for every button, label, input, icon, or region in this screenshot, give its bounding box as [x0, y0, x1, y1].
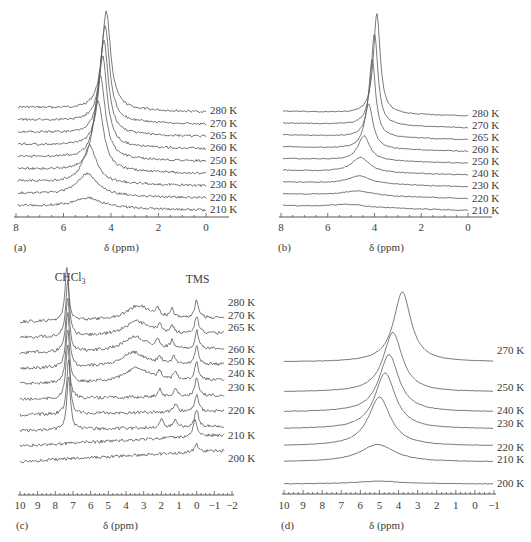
x-tick-label: 5: [377, 499, 383, 511]
temperature-label: 260 K: [210, 141, 237, 153]
temperature-label: 210 K: [210, 203, 237, 215]
temperature-label: 240 K: [210, 166, 237, 178]
spectrum-trace: [20, 360, 224, 417]
temperature-label: 220 K: [497, 441, 524, 453]
x-tick-label: 2: [434, 499, 440, 511]
x-tick-label: 7: [339, 499, 345, 511]
spectrum-trace: [18, 26, 206, 126]
x-tick-label: 2: [159, 499, 165, 511]
x-tick-label: 4: [396, 499, 402, 511]
temperature-label: 200 K: [497, 477, 524, 489]
spectrum-trace: [284, 292, 493, 362]
tms-annotation: TMS: [186, 273, 210, 285]
spectrum-trace: [20, 281, 224, 338]
x-tick-label: 5: [106, 499, 112, 511]
temperature-label: 240 K: [497, 404, 524, 416]
temperature-label: 200 K: [228, 452, 255, 464]
x-tick-label: 6: [358, 499, 364, 511]
x-tick-label: 4: [123, 499, 129, 511]
spectrum-trace: [284, 355, 493, 412]
x-axis-title: δ (ppm): [369, 241, 404, 254]
x-tick-label: 0: [465, 221, 471, 233]
x-tick-label: 6: [88, 499, 94, 511]
spectrum-trace: [18, 173, 206, 199]
spectrum-trace: [20, 313, 224, 370]
temperature-label: 230 K: [472, 179, 499, 191]
temperature-label: 250 K: [472, 155, 499, 167]
panel-d: 109876543210−1(d)δ (ppm)270 K250 K240 K2…: [279, 292, 525, 532]
temperature-label: 260 K: [228, 343, 255, 355]
spectrum-trace: [284, 481, 493, 484]
temperature-label: 265 K: [210, 129, 237, 141]
spectrum-trace: [18, 145, 206, 187]
x-tick-label: 4: [372, 221, 378, 233]
temperature-label: 270 K: [210, 117, 237, 129]
spectrum-trace: [18, 197, 206, 212]
spectrum-trace: [283, 34, 468, 128]
x-tick-label: 0: [472, 499, 478, 511]
temperature-label: 260 K: [472, 143, 499, 155]
x-tick-label: 2: [156, 221, 162, 233]
spectrum-trace: [283, 14, 468, 117]
x-axis-title: δ (ppm): [104, 241, 139, 254]
spectrum-trace: [283, 157, 468, 175]
spectrum-trace: [20, 443, 224, 463]
x-tick-label: 7: [70, 499, 76, 511]
temperature-label: 210 K: [472, 204, 499, 216]
spectrum-trace: [284, 444, 493, 461]
x-tick-label: 1: [453, 499, 459, 511]
x-tick-label: −1: [488, 499, 500, 511]
temperature-label: 265 K: [228, 321, 255, 333]
temperature-label: 230 K: [228, 381, 255, 393]
x-tick-label: 10: [15, 499, 27, 511]
x-tick-label: 3: [415, 499, 421, 511]
spectrum-trace: [283, 204, 468, 211]
temperature-label: 220 K: [472, 192, 499, 204]
temperature-label: 210 K: [497, 453, 524, 465]
x-tick-label: −1: [208, 499, 220, 511]
panel-label: (b): [278, 241, 291, 254]
panel-b: 86420(b)δ (ppm)280 K270 K265 K260 K250 K…: [278, 14, 499, 254]
panel-label: (a): [14, 241, 27, 254]
spectrum-trace: [283, 136, 468, 164]
spectrum-trace: [283, 59, 468, 139]
x-tick-label: 4: [108, 221, 114, 233]
x-tick-label: 8: [13, 221, 19, 233]
x-axis-title: δ (ppm): [103, 519, 138, 532]
spectrum-trace: [284, 373, 493, 429]
temperature-label: 230 K: [210, 178, 237, 190]
x-tick-label: 2: [419, 221, 425, 233]
nmr-figure: 86420(a)δ (ppm)280 K270 K265 K260 K250 K…: [0, 0, 531, 542]
temperature-label: 280 K: [228, 296, 255, 308]
x-tick-label: 1: [176, 499, 182, 511]
x-tick-label: 6: [325, 221, 331, 233]
temperature-label: 250 K: [228, 355, 255, 367]
spectrum-trace: [18, 56, 206, 150]
x-tick-label: −2: [226, 499, 238, 511]
x-tick-label: 3: [141, 499, 147, 511]
chcl3-annotation: CHCl3: [55, 271, 86, 286]
x-tick-label: 10: [279, 499, 291, 511]
temperature-label: 250 K: [497, 381, 524, 393]
temperature-label: 230 K: [497, 417, 524, 429]
temperature-label: 240 K: [472, 167, 499, 179]
x-tick-label: 8: [278, 221, 284, 233]
x-tick-label: 8: [53, 499, 59, 511]
spectrum-trace: [20, 298, 224, 354]
spectrum-trace: [283, 176, 468, 187]
temperature-label: 280 K: [210, 104, 237, 116]
temperature-label: 280 K: [472, 107, 499, 119]
temperature-label: 240 K: [228, 367, 255, 379]
x-tick-label: 0: [203, 221, 209, 233]
x-tick-label: 0: [194, 499, 200, 511]
panel-a: 86420(a)δ (ppm)280 K270 K265 K260 K250 K…: [13, 11, 237, 254]
temperature-label: 270 K: [472, 119, 499, 131]
x-tick-label: 6: [61, 221, 67, 233]
panel-label: (d): [281, 519, 294, 532]
x-tick-label: 9: [300, 499, 306, 511]
temperature-label: 220 K: [210, 191, 237, 203]
panel-label: (c): [16, 519, 29, 532]
temperature-label: 210 K: [228, 429, 255, 441]
spectrum-trace: [20, 419, 224, 447]
spectrum-trace: [18, 11, 206, 113]
